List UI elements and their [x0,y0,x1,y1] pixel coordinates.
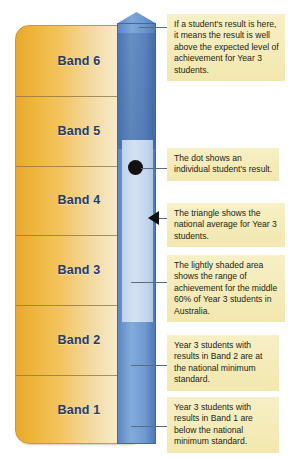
leader-line-above-expected [139,27,169,28]
band-label-6: Band 6 [58,54,101,68]
callout-band2-note: Year 3 students with results in Band 2 a… [167,335,279,391]
national-average-triangle-icon [148,211,159,225]
leader-line-band1-note [131,426,169,427]
achievement-scale-column [117,12,156,444]
callout-dot-legend: The dot shows an individual student's re… [167,148,279,181]
band-label-5: Band 5 [58,124,101,138]
band-label-1: Band 1 [58,403,101,417]
callout-triangle-legend: The triangle shows the national average … [167,203,285,247]
scale-column-body [117,33,156,444]
callout-shaded-legend: The lightly shaded area shows the range … [167,255,285,322]
leader-line-dot-legend [141,168,169,169]
scale-arrow-head-icon [117,12,156,34]
band-label-3: Band 3 [58,263,101,277]
achievement-band-diagram: Band 6 Band 5 Band 4 Band 3 Band 2 Band … [0,0,288,460]
leader-line-shaded-legend [131,282,169,283]
callout-band1-note: Year 3 students with results in Band 1 a… [167,397,279,453]
band-label-2: Band 2 [58,333,101,347]
callout-above-expected: If a student's result is here, it means … [167,14,285,81]
leader-line-band2-note [131,365,169,366]
band-label-4: Band 4 [58,193,101,207]
scale-upper-dark-region [118,33,155,149]
